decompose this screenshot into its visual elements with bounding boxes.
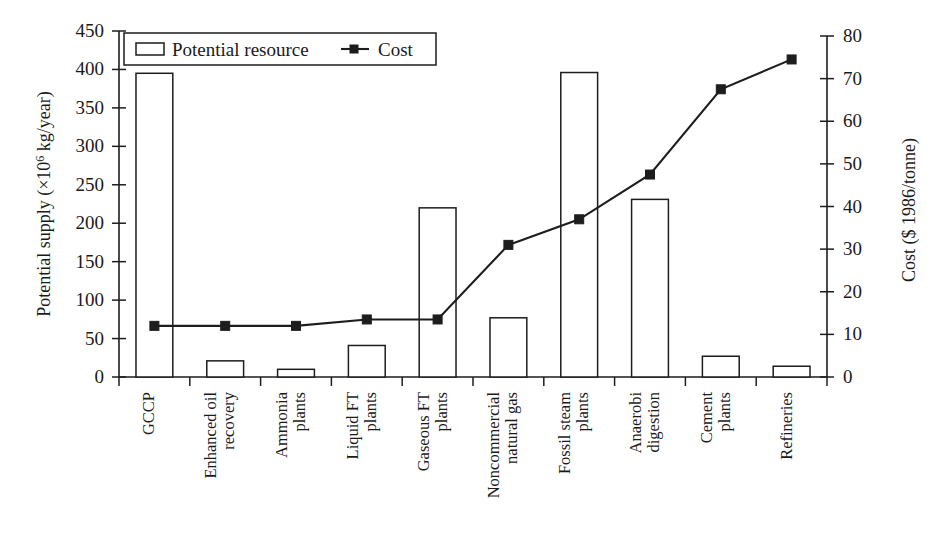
- legend-label-potential-resource: Potential resource: [172, 39, 309, 60]
- left-axis-title-suffix: kg/year): [34, 91, 55, 155]
- x-axis-category-label: Refineries: [777, 392, 796, 460]
- cost-marker: [787, 55, 796, 64]
- x-axis-category-label: GCCP: [139, 392, 158, 435]
- cost-marker: [150, 321, 159, 330]
- bar: [773, 366, 810, 377]
- x-axis-category-label: natural gas: [502, 392, 521, 464]
- right-axis-tick-label: 60: [843, 110, 862, 131]
- cost-marker: [292, 321, 301, 330]
- bar: [136, 73, 173, 377]
- cost-marker: [362, 315, 371, 324]
- left-axis-tick-label: 350: [76, 97, 105, 118]
- right-axis-tick-label: 40: [843, 196, 862, 217]
- legend: Potential resource Cost: [124, 33, 436, 65]
- bar: [702, 356, 739, 377]
- svg-text:Potential supply (×106 kg/year: Potential supply (×106 kg/year): [33, 91, 55, 317]
- x-axis-category-label: plants: [573, 392, 592, 431]
- x-axis: [119, 377, 827, 386]
- x-axis-category-label: Fossil steam: [555, 392, 574, 474]
- right-axis-title-text: Cost ($ 1986/tonne): [899, 138, 920, 282]
- bar: [632, 199, 669, 377]
- x-axis-category-label: plants: [715, 392, 734, 431]
- x-axis-category-label: Enhanced oil: [201, 392, 220, 479]
- left-axis-tick-label: 450: [76, 20, 105, 41]
- left-axis-tick-label: 300: [76, 135, 105, 156]
- right-axis-tick-label: 30: [843, 238, 862, 259]
- x-axis-category-labels: GCCPEnhanced oilrecoveryAmmoniaplantsLiq…: [139, 391, 795, 498]
- bar: [348, 345, 385, 377]
- x-axis-category-label: plants: [290, 392, 309, 431]
- x-axis-category-label: digestion: [644, 392, 663, 453]
- x-axis-category-label: Gaseous FT: [414, 392, 433, 471]
- right-axis-tick-label: 10: [843, 323, 862, 344]
- x-axis-category-label: plants: [361, 392, 380, 431]
- bar: [419, 208, 456, 377]
- line-series-cost: [154, 59, 791, 326]
- legend-marker-cost: [350, 45, 358, 53]
- left-axis-tick-label: 150: [76, 251, 105, 272]
- bar: [490, 318, 527, 377]
- x-axis-category-label: Noncommercial: [484, 392, 503, 499]
- x-axis-category-label: Cement: [697, 392, 716, 444]
- line-series-cost-markers: [150, 55, 796, 330]
- x-axis-category-label: plants: [432, 392, 451, 431]
- right-axis-title: Cost ($ 1986/tonne): [899, 138, 920, 282]
- right-axis-tick-label: 0: [843, 366, 853, 387]
- cost-marker: [504, 240, 513, 249]
- left-axis-tick-label: 400: [76, 58, 105, 79]
- x-axis-category-label: recovery: [219, 391, 238, 449]
- bar-series-potential-resource: [136, 73, 810, 377]
- legend-swatch-potential-resource: [136, 43, 164, 55]
- chart-svg: 050100150200250300350400450 010203040506…: [0, 0, 934, 555]
- cost-marker: [646, 170, 655, 179]
- left-axis: 050100150200250300350400450: [76, 20, 127, 387]
- right-axis: 01020304050607080: [820, 25, 862, 387]
- left-axis-tick-label: 250: [76, 174, 105, 195]
- left-axis-title: Potential supply (×106 kg/year): [33, 91, 55, 317]
- left-axis-tick-label: 50: [85, 328, 104, 349]
- cost-marker: [433, 315, 442, 324]
- x-axis-ticks: [119, 377, 827, 386]
- chart-figure: 050100150200250300350400450 010203040506…: [0, 0, 934, 555]
- right-axis-tick-label: 80: [843, 25, 862, 46]
- bar: [278, 369, 315, 377]
- bar: [207, 361, 244, 377]
- legend-label-cost: Cost: [378, 39, 414, 60]
- left-axis-tick-label: 100: [76, 289, 105, 310]
- cost-marker: [221, 321, 230, 330]
- cost-polyline: [154, 59, 791, 326]
- cost-marker: [716, 85, 725, 94]
- cost-marker: [575, 215, 584, 224]
- right-axis-tick-label: 50: [843, 153, 862, 174]
- right-axis-tick-labels: 01020304050607080: [843, 25, 862, 387]
- left-axis-tick-labels: 050100150200250300350400450: [76, 20, 105, 387]
- x-axis-category-label: Ammonia: [272, 391, 291, 458]
- right-axis-tick-label: 70: [843, 68, 862, 89]
- left-axis-title-prefix: Potential supply (×10: [34, 162, 55, 317]
- left-axis-tick-label: 200: [76, 212, 105, 233]
- right-axis-tick-label: 20: [843, 281, 862, 302]
- x-axis-category-label: Anaerobi: [626, 392, 645, 454]
- left-axis-tick-label: 0: [95, 366, 105, 387]
- x-axis-category-label: Liquid FT: [343, 392, 362, 459]
